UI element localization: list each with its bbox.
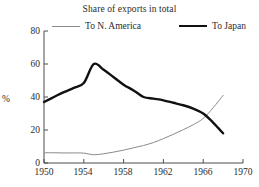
- y-axis-ticks: [44, 31, 48, 163]
- chart-figure: Share of exports in total To N. America …: [0, 0, 259, 187]
- plot-area: [0, 0, 259, 187]
- x-axis-ticks: [44, 159, 243, 163]
- series-line-to-n-america: [44, 95, 223, 154]
